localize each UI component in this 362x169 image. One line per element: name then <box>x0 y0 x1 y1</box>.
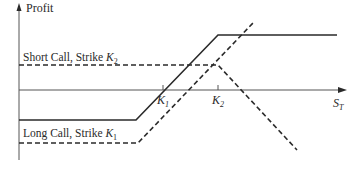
long-call-line <box>19 23 253 143</box>
long-call-label: Long Call, Strike K1 <box>23 127 117 142</box>
bull-spread-diagram: Profit ST K1 K2 Short Call, Strike K2 Lo… <box>0 0 362 169</box>
y-axis-arrow-icon <box>17 3 22 11</box>
bull-spread-line <box>19 35 337 120</box>
x-axis-arrow-icon <box>338 87 347 93</box>
y-axis-label: Profit <box>26 1 54 15</box>
k2-label: K2 <box>211 93 224 109</box>
short-call-label: Short Call, Strike K2 <box>23 51 118 66</box>
k1-label: K1 <box>156 93 169 109</box>
x-axis-label: ST <box>333 96 344 112</box>
